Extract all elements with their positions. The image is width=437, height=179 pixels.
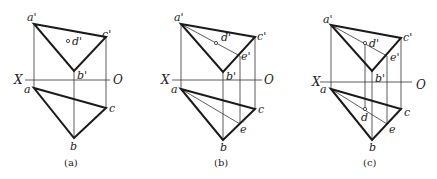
label-e: e (389, 123, 396, 136)
label-e-prime: e' (241, 50, 251, 63)
label-a-prime: a' (27, 11, 37, 24)
label-c-prime: c' (257, 30, 266, 43)
label-c: c (404, 106, 410, 119)
label-c-prime: c' (102, 28, 111, 41)
auxiliary-line-a-e (181, 89, 240, 124)
point-d-prime (214, 41, 217, 44)
label-a: a (320, 83, 327, 96)
label-d: d (361, 111, 368, 124)
axis-label-o: O (113, 73, 123, 87)
label-e-prime: e' (390, 51, 400, 64)
label-b: b (369, 141, 376, 154)
caption-a: (a) (64, 157, 78, 168)
front-view-triangle (181, 24, 255, 72)
auxiliary-line-a-e (331, 89, 387, 124)
label-c: c (258, 103, 264, 116)
label-b-prime: b' (77, 69, 87, 82)
panel-b: X O a' c' d' e' b' a c e b (b) (160, 11, 274, 168)
top-view-triangle (34, 88, 106, 138)
axis-label-x: X (160, 73, 170, 87)
label-b-prime: b' (375, 72, 385, 85)
axis-label-x: X (13, 73, 23, 87)
label-b: b (70, 140, 77, 153)
label-b-prime: b' (226, 70, 236, 83)
label-e: e (240, 123, 247, 136)
label-d-prime: d' (72, 35, 82, 48)
label-a-prime: a' (174, 11, 184, 24)
axis-label-o: O (264, 73, 274, 87)
panel-a: X O a' c' d' b' a c b (a) (13, 11, 123, 168)
caption-c: (c) (363, 157, 377, 168)
label-d-prime: d' (221, 31, 231, 44)
label-b: b (220, 141, 227, 154)
caption-b: (b) (214, 157, 228, 168)
label-c: c (109, 102, 115, 115)
panel-c: X O a' c' d' e' b' a c d e b (c) (311, 13, 426, 168)
label-a: a (171, 83, 178, 96)
label-a-prime: a' (323, 13, 333, 26)
label-a: a (24, 83, 31, 96)
axis-label-o: O (416, 78, 426, 92)
label-d-prime: d' (369, 37, 379, 50)
point-d-prime (363, 41, 366, 44)
orthographic-projection-figure: X O a' c' d' b' a c b (a) X O a' (0, 0, 437, 179)
front-view-triangle (331, 25, 401, 71)
label-c-prime: c' (403, 31, 412, 44)
front-view-triangle (34, 24, 106, 71)
point-d-prime (66, 39, 69, 42)
